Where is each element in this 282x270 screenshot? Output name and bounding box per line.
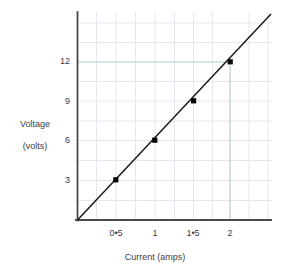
data-point: [113, 177, 118, 182]
x-tick-label-0-5: 0•5: [103, 228, 129, 238]
axis-lines: [76, 12, 271, 221]
x-axis-title: Current (amps): [100, 252, 210, 263]
y-tick-label-9: 9: [48, 96, 70, 106]
x-tick-label-2: 2: [217, 228, 243, 238]
data-point: [152, 138, 157, 143]
data-point: [228, 59, 233, 64]
y-tick-label-3: 3: [48, 175, 70, 185]
x-tick-label-1: 1: [142, 228, 168, 238]
x-tick-label-1-5: 1•5: [180, 228, 206, 238]
y-axis-title-line1: Voltage: [4, 119, 66, 130]
y-tick-label-12: 12: [48, 56, 70, 66]
y-tick-label-6: 6: [48, 135, 70, 145]
chart-page: Voltage (volts) Current (amps) 3 6 9 12 …: [0, 0, 282, 270]
data-point: [191, 98, 196, 103]
